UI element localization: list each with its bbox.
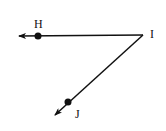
point-j [65, 99, 72, 106]
label-h: H [34, 17, 43, 31]
label-j: J [75, 107, 80, 121]
label-i: I [150, 27, 154, 41]
angle-diagram: H I J [0, 0, 166, 131]
diagram-svg: H I J [0, 0, 166, 131]
point-h [35, 33, 42, 40]
